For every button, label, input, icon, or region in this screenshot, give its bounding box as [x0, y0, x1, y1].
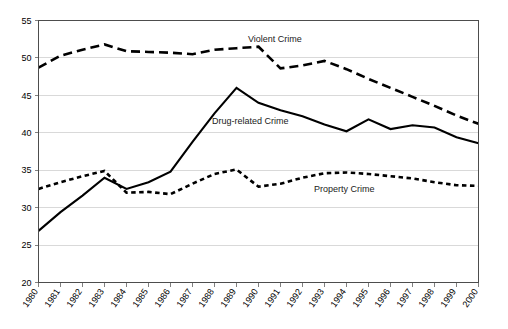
x-tick-label-1981: 1981 — [42, 287, 62, 309]
x-tick-label-1989: 1989 — [218, 287, 238, 309]
y-axis-tick-labels: 2025303540455055 — [21, 16, 38, 288]
x-tick-label-1995: 1995 — [350, 287, 370, 309]
x-tick-label-1997: 1997 — [394, 287, 414, 309]
y-tick-label-45: 45 — [21, 91, 31, 101]
x-tick-label-1985: 1985 — [130, 287, 150, 309]
x-tick-label-1993: 1993 — [306, 287, 326, 309]
y-tick-label-25: 25 — [21, 240, 31, 250]
gridlines — [39, 58, 479, 245]
y-tick-label-50: 50 — [21, 53, 31, 63]
x-tick-label-1998: 1998 — [416, 287, 436, 309]
x-tick-label-2000: 2000 — [460, 287, 480, 309]
y-tick-label-40: 40 — [21, 128, 31, 138]
plot-axes — [39, 21, 479, 283]
annotation-drug-related-crime: Drug-related Crime — [212, 116, 289, 126]
series-line-drug-related-crime — [39, 88, 479, 231]
y-tick-label-55: 55 — [21, 16, 31, 26]
annotation-property-crime: Property Crime — [314, 184, 375, 194]
x-tick-label-1984: 1984 — [108, 287, 128, 309]
x-tick-label-1986: 1986 — [152, 287, 172, 309]
x-tick-label-1999: 1999 — [438, 287, 458, 309]
x-tick-label-1982: 1982 — [64, 287, 84, 309]
annotation-violent-crime: Violent Crime — [248, 34, 302, 44]
series-line-violent-crime — [39, 44, 479, 123]
x-tick-label-1983: 1983 — [86, 287, 106, 309]
x-tick-label-1990: 1990 — [240, 287, 260, 309]
y-tick-label-20: 20 — [21, 278, 31, 288]
x-tick-label-1994: 1994 — [328, 287, 348, 309]
line-chart: 2025303540455055 19801981198219831984198… — [0, 0, 508, 329]
x-tick-label-1996: 1996 — [372, 287, 392, 309]
data-series — [39, 44, 479, 230]
x-tick-label-1987: 1987 — [174, 287, 194, 309]
x-tick-label-1992: 1992 — [284, 287, 304, 309]
y-tick-label-35: 35 — [21, 165, 31, 175]
chart-container: 2025303540455055 19801981198219831984198… — [0, 0, 508, 329]
x-axis-tick-labels: 1980198119821983198419851986198719881989… — [20, 283, 480, 310]
x-tick-label-1988: 1988 — [196, 287, 216, 309]
x-tick-label-1980: 1980 — [20, 287, 40, 309]
y-tick-label-30: 30 — [21, 203, 31, 213]
x-tick-label-1991: 1991 — [262, 287, 282, 309]
axis-frame — [39, 21, 479, 283]
series-line-property-crime — [39, 169, 479, 194]
